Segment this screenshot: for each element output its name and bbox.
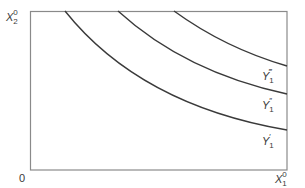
label-primes: ′ <box>269 133 271 141</box>
y-axis-label-superscript: 0 <box>13 9 17 17</box>
label-primes: ‴ <box>269 68 272 76</box>
x-axis-label-superscript: 0 <box>282 171 286 179</box>
plot-frame <box>31 12 288 171</box>
label-base: Y <box>262 135 269 147</box>
y-axis-label: X02 <box>6 12 19 24</box>
y-axis-label-subscript: 2 <box>13 18 17 26</box>
diagram-canvas <box>0 0 305 188</box>
curve-label-y1-prime: Y′1 <box>262 136 279 148</box>
label-subscript: 1 <box>269 106 273 114</box>
label-primes: ″ <box>269 97 272 105</box>
y-axis-label-base: X <box>6 11 13 23</box>
label-base: Y <box>262 99 269 111</box>
x-axis-label-base: X <box>275 173 282 185</box>
curve-label-y1-double-prime: Y″1 <box>262 100 279 112</box>
x-axis-label: X01 <box>275 174 288 186</box>
curve-label-y1-triple-prime: Y‴1 <box>262 71 279 83</box>
curve-y1-prime <box>65 11 287 130</box>
label-subscript: 1 <box>269 142 273 150</box>
curve-y1-triple-prime <box>174 11 287 66</box>
label-subscript: 1 <box>269 77 273 85</box>
x-axis-label-subscript: 1 <box>282 180 286 188</box>
origin-label: 0 <box>19 173 25 184</box>
